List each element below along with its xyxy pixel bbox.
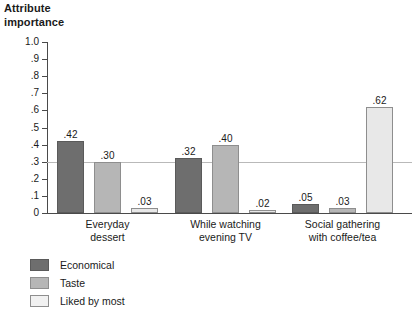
x-axis-line — [47, 213, 412, 214]
bar-value-label: .02 — [256, 198, 270, 209]
y-axis-tick-mark — [42, 59, 47, 60]
bar-chart: Attribute importance 1.0.9.8.7.6.5.4.3.2… — [0, 0, 412, 316]
bar-value-label: .05 — [299, 192, 313, 203]
y-axis-tick-label: 1.0 — [25, 37, 39, 47]
legend-swatch-icon — [30, 295, 49, 307]
bar: .30 — [94, 162, 121, 213]
y-axis-tick-label: .5 — [31, 123, 39, 133]
y-axis-tick-label: .4 — [31, 140, 39, 150]
y-axis-tick-label: .2 — [31, 174, 39, 184]
bar: .32 — [175, 158, 202, 213]
y-axis-tick-mark — [42, 196, 47, 197]
legend-item[interactable]: Economical — [30, 256, 125, 273]
y-axis-tick-mark — [42, 42, 47, 43]
y-axis-tick-label: 0 — [33, 208, 39, 218]
chart-title: Attribute importance — [4, 2, 64, 29]
bar: .03 — [329, 208, 356, 213]
bar-value-label: .42 — [64, 129, 78, 140]
bar-value-label: .03 — [336, 196, 350, 207]
y-axis-tick-mark — [42, 128, 47, 129]
bar: .40 — [212, 145, 239, 213]
bar-value-label: .40 — [219, 133, 233, 144]
y-axis-tick-label: .6 — [31, 105, 39, 115]
y-axis-tick-mark — [42, 76, 47, 77]
x-axis-category-label: Social gathering with coffee/tea — [273, 218, 412, 243]
plot-area: 1.0.9.8.7.6.5.4.3.2.10 .42.30.03.32.40.0… — [47, 42, 412, 213]
bar-value-label: .32 — [182, 146, 196, 157]
legend-label: Economical — [60, 259, 114, 271]
y-axis-tick-mark — [42, 110, 47, 111]
bar-value-label: .30 — [101, 150, 115, 161]
y-axis-tick-label: .9 — [31, 54, 39, 64]
legend-label: Liked by most — [60, 295, 125, 307]
bar: .03 — [131, 208, 158, 213]
y-axis-tick-label: .3 — [31, 157, 39, 167]
bar: .62 — [366, 107, 393, 213]
bar: .02 — [249, 210, 276, 213]
y-axis-tick-label: .7 — [31, 88, 39, 98]
legend-item[interactable]: Taste — [30, 274, 125, 291]
y-axis-tick-label: .1 — [31, 191, 39, 201]
chart-legend: EconomicalTasteLiked by most — [30, 256, 125, 310]
legend-swatch-icon — [30, 277, 49, 289]
bar: .05 — [292, 204, 319, 213]
y-axis-tick-label: .8 — [31, 71, 39, 81]
y-axis-tick-mark — [42, 145, 47, 146]
legend-item[interactable]: Liked by most — [30, 292, 125, 309]
y-axis-tick-mark — [42, 93, 47, 94]
bar: .42 — [57, 141, 84, 213]
y-axis-line — [47, 42, 48, 214]
bar-value-label: .03 — [138, 196, 152, 207]
y-axis-tick-mark — [42, 179, 47, 180]
legend-label: Taste — [60, 277, 85, 289]
y-axis-tick-mark — [42, 213, 47, 214]
legend-swatch-icon — [30, 259, 49, 271]
bar-value-label: .62 — [373, 95, 387, 106]
